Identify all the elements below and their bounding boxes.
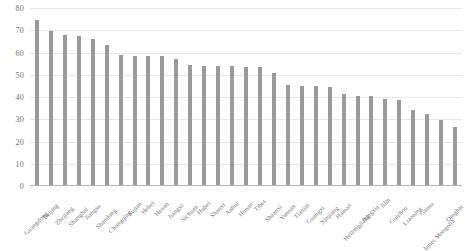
y-axis-tick: 40 [16,93,24,102]
bar-slot [323,8,337,186]
x-label-slot: Liaoning [406,187,420,245]
bar-slot [225,8,239,186]
x-axis-label-text: Gansu [418,200,435,217]
x-axis-label-text: Jilin [379,196,392,209]
bar[interactable] [286,85,290,186]
bar[interactable] [35,20,39,186]
bar[interactable] [105,45,109,186]
bar-slot [128,8,142,186]
bar-slot [100,8,114,186]
x-axis-label-text: Hainan [334,201,352,219]
x-axis-label-text: Qinghai [444,203,464,223]
y-axis-tick: 60 [16,48,24,57]
x-label-slot: Hubei [197,187,211,245]
bar[interactable] [328,87,332,186]
bar[interactable] [425,114,429,186]
x-label-slot: Hunan [239,187,253,245]
bar-slot [72,8,86,186]
bar[interactable] [49,31,53,186]
bar[interactable] [146,56,150,186]
bar[interactable] [133,56,137,186]
bar-slot [183,8,197,186]
x-label-slot: Chongqing [114,187,128,245]
x-label-slot: Fujian [128,187,142,245]
x-label-slot: Hebei [142,187,156,245]
x-axis-line [30,185,462,186]
bar[interactable] [202,66,206,186]
bar[interactable] [397,100,401,186]
bar-slot [337,8,351,186]
bar[interactable] [188,65,192,186]
y-axis-tick: 50 [16,70,24,79]
bar-slot [434,8,448,186]
bar-slot [392,8,406,186]
y-axis-tick: 10 [16,159,24,168]
bar-slot [197,8,211,186]
bar-slot [267,8,281,186]
x-axis-label-text: Jiangsu [82,202,101,221]
bar[interactable] [411,110,415,186]
bar[interactable] [314,86,318,186]
bar-slot [448,8,462,186]
bar-slot [253,8,267,186]
bar-slot [155,8,169,186]
bar-slot [86,8,100,186]
bar-slot [44,8,58,186]
bar[interactable] [439,120,443,186]
bar-slot [142,8,156,186]
x-label-slot: Beijing [44,187,58,245]
bar[interactable] [216,66,220,186]
bar[interactable] [174,59,178,186]
bar-slot [114,8,128,186]
bar[interactable] [453,127,457,186]
bar[interactable] [356,96,360,186]
bar[interactable] [77,36,81,186]
x-label-slot: Jiangsu [86,187,100,245]
y-axis: 01020304050607080 [0,8,28,186]
bar-slot [420,8,434,186]
bar[interactable] [160,56,164,186]
y-axis-tick: 20 [16,137,24,146]
bar[interactable] [91,39,95,186]
bar-slot [30,8,44,186]
bar[interactable] [342,94,346,186]
x-label-slot: Guizhou [392,187,406,245]
bar[interactable] [272,73,276,186]
x-axis-labels: GuangdongBeijingZhejiangShanghaiJiangsuS… [30,187,462,245]
y-axis-tick: 70 [16,26,24,35]
bar-slot [406,8,420,186]
bar-slot [211,8,225,186]
bar-slot [281,8,295,186]
bar-slot [239,8,253,186]
bar[interactable] [300,86,304,186]
y-axis-tick: 80 [16,4,24,13]
x-label-slot: Tianjin [295,187,309,245]
bar-slot [295,8,309,186]
bar-slot [169,8,183,186]
x-axis-label-text: Hunan [237,200,254,217]
bar-slot [378,8,392,186]
x-label-slot: Shanxi [211,187,225,245]
plot-area [30,8,462,186]
bar-slot [58,8,72,186]
bar-series [30,8,462,186]
bar-slot [351,8,365,186]
x-label-slot: Ningxia [365,187,379,245]
x-label-slot: Zhejiang [58,187,72,245]
y-axis-tick: 0 [20,182,24,191]
x-axis-label: Qinghai [459,188,466,208]
bar[interactable] [244,67,248,186]
bar[interactable] [258,67,262,186]
bar-slot [309,8,323,186]
x-label-slot: Guangxi [309,187,323,245]
bar[interactable] [119,55,123,186]
x-label-slot: Shandong [100,187,114,245]
x-label-slot: Anhui [225,187,239,245]
x-label-slot: Qinghai [448,187,462,245]
y-axis-tick: 30 [16,115,24,124]
bar[interactable] [383,99,387,186]
bar[interactable] [63,35,67,186]
bar[interactable] [230,66,234,186]
bar[interactable] [369,96,373,186]
